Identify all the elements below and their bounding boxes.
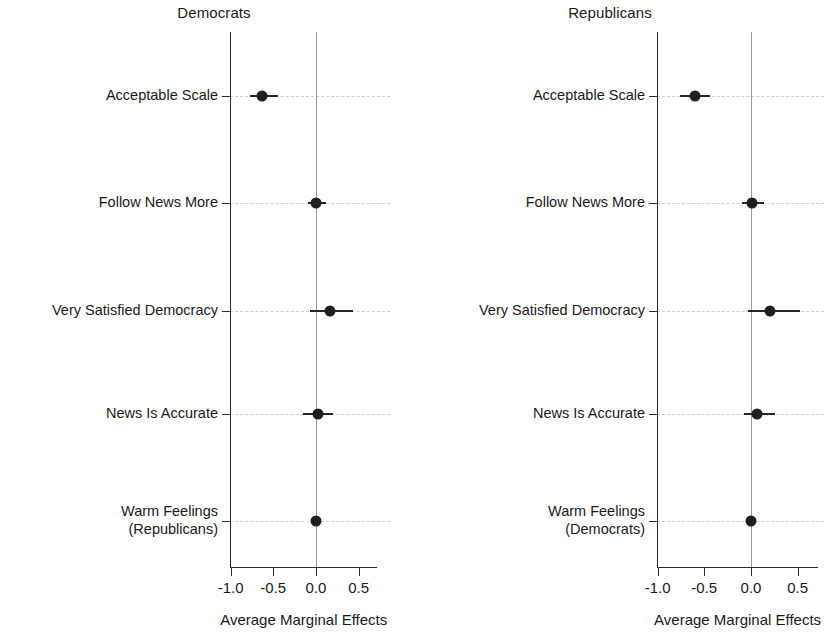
y-axis-tick xyxy=(649,521,657,522)
y-axis-category-label-line: (Republicans) xyxy=(121,521,218,539)
y-axis-tick xyxy=(649,311,657,312)
y-axis-category-label: Follow News More xyxy=(99,194,218,212)
y-axis-category-label-line: News Is Accurate xyxy=(106,405,218,423)
y-axis-category-label: News Is Accurate xyxy=(106,405,218,423)
y-axis-tick xyxy=(649,203,657,204)
x-axis-tick-label: -0.5 xyxy=(260,579,286,596)
y-axis-category-label-line: Warm Feelings xyxy=(121,503,218,521)
x-axis-tick-label: 0.5 xyxy=(348,579,369,596)
x-axis-tick xyxy=(798,568,799,576)
y-axis-category-label-line: Warm Feelings xyxy=(548,503,645,521)
plot-area-democrats xyxy=(230,32,390,567)
y-axis-category-label-line: Acceptable Scale xyxy=(533,87,645,105)
gridline-row xyxy=(657,521,824,522)
y-axis-line xyxy=(657,32,658,567)
point-estimate-marker xyxy=(311,516,322,527)
y-axis-category-label: News Is Accurate xyxy=(533,405,645,423)
point-estimate-marker xyxy=(764,306,775,317)
x-axis-title: Average Marginal Effects xyxy=(220,611,387,628)
y-axis-category-label-line: News Is Accurate xyxy=(533,405,645,423)
y-axis-category-label: Very Satisfied Democracy xyxy=(479,302,645,320)
y-axis-tick xyxy=(222,311,230,312)
y-axis-category-label: Warm Feelings(Democrats) xyxy=(548,503,645,538)
zero-reference-line xyxy=(751,32,752,567)
x-axis-line xyxy=(657,567,818,568)
plot-area-republicans xyxy=(657,32,824,567)
x-axis-tick-label: -1.0 xyxy=(645,579,671,596)
panel-democrats: Democrats Acceptable ScaleFollow News Mo… xyxy=(0,0,412,639)
y-axis-tick xyxy=(649,414,657,415)
x-axis-tick xyxy=(231,568,232,576)
x-axis-tick xyxy=(273,568,274,576)
point-estimate-marker xyxy=(746,516,757,527)
x-axis-tick xyxy=(658,568,659,576)
x-axis-line xyxy=(230,567,377,568)
y-axis-category-label: Acceptable Scale xyxy=(533,87,645,105)
x-axis-tick-label: -0.5 xyxy=(691,579,717,596)
x-axis-tick-label: 0.0 xyxy=(741,579,762,596)
y-axis-category-label-line: Follow News More xyxy=(99,194,218,212)
x-axis-tick-label: 0.5 xyxy=(787,579,808,596)
point-estimate-marker xyxy=(312,409,323,420)
point-estimate-marker xyxy=(257,91,268,102)
point-estimate-marker xyxy=(751,409,762,420)
zero-reference-line xyxy=(316,32,317,567)
panel-title-republicans: Republicans xyxy=(404,4,816,21)
x-axis-title: Average Marginal Effects xyxy=(654,611,821,628)
y-axis-category-label: Very Satisfied Democracy xyxy=(52,302,218,320)
coefficient-plot-figure: Democrats Acceptable ScaleFollow News Mo… xyxy=(0,0,824,639)
y-axis-tick xyxy=(649,96,657,97)
y-axis-category-label-line: Acceptable Scale xyxy=(106,87,218,105)
x-axis-tick xyxy=(359,568,360,576)
point-estimate-marker xyxy=(746,198,757,209)
y-axis-tick xyxy=(222,96,230,97)
y-axis-category-label-line: Very Satisfied Democracy xyxy=(52,302,218,320)
x-axis-tick xyxy=(704,568,705,576)
y-axis-category-label: Acceptable Scale xyxy=(106,87,218,105)
y-axis-tick xyxy=(222,414,230,415)
gridline-row xyxy=(657,414,824,415)
panel-title-democrats: Democrats xyxy=(8,4,420,21)
x-axis-tick xyxy=(316,568,317,576)
point-estimate-marker xyxy=(311,198,322,209)
y-axis-category-label-line: Very Satisfied Democracy xyxy=(479,302,645,320)
y-axis-tick xyxy=(222,521,230,522)
panel-republicans: Republicans Acceptable ScaleFollow News … xyxy=(412,0,824,639)
y-axis-category-label-line: Follow News More xyxy=(526,194,645,212)
x-axis-tick-label: 0.0 xyxy=(306,579,327,596)
gridline-row xyxy=(657,203,824,204)
y-axis-tick xyxy=(222,203,230,204)
y-axis-category-label: Follow News More xyxy=(526,194,645,212)
y-axis-line xyxy=(230,32,231,567)
point-estimate-marker xyxy=(689,91,700,102)
x-axis-tick xyxy=(751,568,752,576)
point-estimate-marker xyxy=(324,306,335,317)
x-axis-tick-label: -1.0 xyxy=(218,579,244,596)
y-axis-category-label-line: (Democrats) xyxy=(548,521,645,539)
y-axis-category-label: Warm Feelings(Republicans) xyxy=(121,503,218,538)
